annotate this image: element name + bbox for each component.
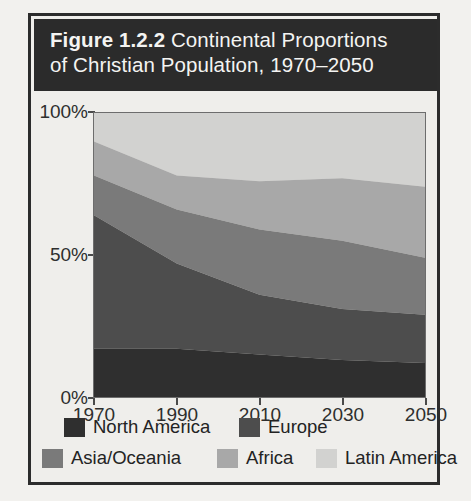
legend-label-latin-america: Latin America	[345, 447, 457, 469]
figure-title-line-1: Figure 1.2.2 Continental Proportions	[50, 27, 423, 52]
y-tick-label-100: 100%	[39, 101, 88, 123]
figure-title-line-2: of Christian Population, 1970–2050	[50, 52, 423, 77]
legend-label-asia-oceania: Asia/Oceania	[71, 447, 181, 469]
legend-swatch-europe	[239, 418, 260, 437]
figure-title-rest: Continental Proportions	[165, 28, 387, 51]
legend-row-2: Asia/Oceania Africa Latin America	[34, 447, 437, 473]
legend-item-africa[interactable]: Africa	[217, 447, 293, 469]
legend-swatch-latin-america	[316, 449, 337, 468]
legend-swatch-north-america	[64, 418, 85, 437]
legend-row-1: North America Europe	[34, 416, 437, 442]
y-axis-labels: 100% 50% 0%	[34, 91, 88, 411]
figure-container: Figure 1.2.2 Continental Proportions of …	[28, 13, 440, 485]
figure-number: Figure 1.2.2	[50, 28, 165, 51]
legend-swatch-asia-oceania	[42, 449, 63, 468]
legend-swatch-africa	[217, 449, 238, 468]
legend-label-europe: Europe	[268, 416, 328, 438]
legend-label-africa: Africa	[246, 447, 293, 469]
legend-item-europe[interactable]: Europe	[239, 416, 328, 438]
legend-item-latin-america[interactable]: Latin America	[316, 447, 457, 469]
stacked-area-svg	[94, 113, 425, 397]
legend-label-north-america: North America	[93, 416, 210, 438]
plot-wrapper: 100% 50% 0% 1970 1990 2010 2030 2050	[34, 91, 437, 411]
stacked-area-plot	[93, 112, 426, 398]
figure-title-bar: Figure 1.2.2 Continental Proportions of …	[34, 19, 437, 91]
legend-item-north-america[interactable]: North America	[64, 416, 210, 438]
legend-item-asia-oceania[interactable]: Asia/Oceania	[42, 447, 181, 469]
chart-legend: North America Europe Asia/Oceania Africa…	[34, 416, 437, 482]
y-tick-label-50: 50%	[50, 244, 88, 266]
